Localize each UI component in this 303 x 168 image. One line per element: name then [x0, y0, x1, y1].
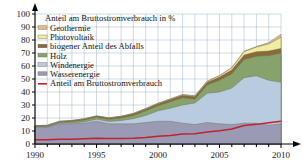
y-tick-label: 90: [21, 22, 31, 32]
x-tick-label: 2010: [272, 150, 291, 160]
x-tick-label: 1995: [88, 150, 107, 160]
y-axis-tick-labels: 0102030405060708090100: [17, 9, 31, 149]
chart-container: 0102030405060708090100 19901995200020052…: [0, 0, 303, 168]
legend-color-swatch: [38, 72, 47, 76]
legend-label: Anteil am Bruttostromverbrauch: [50, 78, 163, 88]
y-tick-label: 50: [21, 74, 31, 84]
x-tick-label: 2005: [211, 150, 230, 160]
y-tick-label: 100: [17, 9, 31, 19]
y-tick-label: 70: [21, 48, 31, 58]
area-wasserenergie: [35, 121, 281, 144]
stacked-area-chart: 0102030405060708090100 19901995200020052…: [0, 0, 303, 168]
legend-color-swatch: [38, 35, 47, 39]
y-tick-label: 30: [21, 100, 31, 110]
x-tick-label: 2000: [149, 150, 168, 160]
y-tick-label: 20: [21, 113, 31, 123]
y-tick-label: 60: [21, 61, 31, 71]
chart-title: Anteil am Bruttostromverbrauch in %: [45, 13, 175, 23]
y-tick-label: 10: [21, 126, 31, 136]
legend-color-swatch: [38, 44, 47, 48]
legend-color-swatch: [38, 53, 47, 57]
legend-color-swatch: [38, 26, 47, 30]
y-tick-label: 40: [21, 87, 31, 97]
x-tick-label: 1990: [26, 150, 45, 160]
legend-color-swatch: [38, 63, 47, 67]
y-tick-label: 0: [26, 139, 31, 149]
legend-item: Anteil am Bruttostromverbrauch: [38, 78, 163, 88]
y-tick-label: 80: [21, 35, 31, 45]
x-axis-tick-labels: 19901995200020052010: [26, 150, 291, 160]
